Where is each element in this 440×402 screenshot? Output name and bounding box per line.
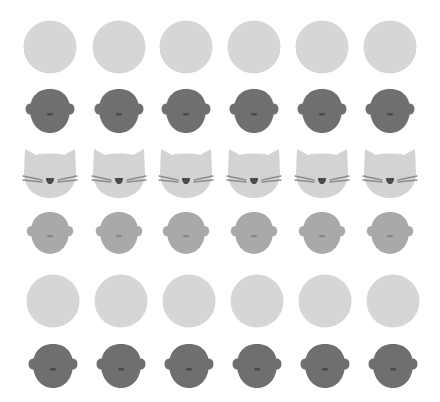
head-icon	[159, 336, 219, 396]
circle-icon	[224, 17, 284, 77]
cat-face-icon	[292, 143, 352, 203]
head-icon	[91, 336, 151, 396]
head-icon	[295, 336, 355, 396]
head-icon	[224, 81, 284, 141]
head-icon	[89, 203, 149, 263]
circle-icon	[89, 17, 149, 77]
cat-face-icon	[20, 143, 80, 203]
head-icon	[89, 81, 149, 141]
head-icon	[292, 203, 352, 263]
circle-icon	[292, 17, 352, 77]
circle-icon	[156, 17, 216, 77]
circle-icon	[91, 271, 151, 331]
cat-face-icon	[360, 143, 420, 203]
head-icon	[23, 336, 83, 396]
head-icon	[360, 203, 420, 263]
head-icon	[156, 81, 216, 141]
circle-icon	[295, 271, 355, 331]
circle-icon	[363, 271, 423, 331]
head-icon	[363, 336, 423, 396]
head-icon	[227, 336, 287, 396]
icon-grid	[0, 0, 440, 402]
head-icon	[224, 203, 284, 263]
circle-icon	[360, 17, 420, 77]
circle-icon	[159, 271, 219, 331]
cat-face-icon	[156, 143, 216, 203]
circle-icon	[20, 17, 80, 77]
head-icon	[20, 81, 80, 141]
head-icon	[360, 81, 420, 141]
head-icon	[20, 203, 80, 263]
head-icon	[292, 81, 352, 141]
cat-face-icon	[89, 143, 149, 203]
cat-face-icon	[224, 143, 284, 203]
head-icon	[156, 203, 216, 263]
circle-icon	[23, 271, 83, 331]
circle-icon	[227, 271, 287, 331]
